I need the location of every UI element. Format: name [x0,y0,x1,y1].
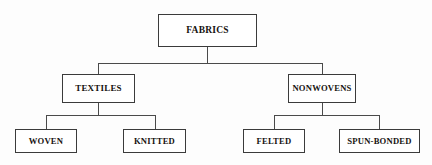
node-spun-bonded-label: SPUN-BONDED [347,137,411,146]
node-nonwovens-label: NONWOVENS [292,84,351,93]
node-woven: WOVEN [15,129,77,153]
node-knitted-label: KNITTED [134,137,175,146]
fabrics-hierarchy-diagram: FABRICS TEXTILES NONWOVENS WOVEN KNITTED… [0,0,432,165]
node-woven-label: WOVEN [29,137,63,146]
node-fabrics-label: FABRICS [186,26,228,36]
edge-nonwovens-horizontal-bar [274,115,380,116]
node-spun-bonded: SPUN-BONDED [339,129,420,153]
node-textiles-label: TEXTILES [75,84,122,93]
edge-nonwovens-trunk-stub [322,103,323,115]
node-felted: FELTED [243,129,305,153]
edge-textiles-to-woven [46,115,47,129]
node-felted-label: FELTED [257,137,292,146]
node-knitted: KNITTED [123,129,186,153]
edge-nonwovens-to-spun-bonded [379,115,380,129]
edge-fabrics-horizontal-bar [98,63,323,64]
edge-fabrics-trunk-stub [207,47,208,63]
node-nonwovens: NONWOVENS [288,74,356,103]
edge-textiles-trunk-stub [98,103,99,115]
node-fabrics: FABRICS [158,14,257,47]
edge-textiles-horizontal-bar [46,115,156,116]
node-textiles: TEXTILES [62,74,135,103]
edge-fabrics-to-textiles [98,63,99,74]
edge-fabrics-to-nonwovens [322,63,323,74]
edge-textiles-to-knitted [155,115,156,129]
edge-nonwovens-to-felted [274,115,275,129]
